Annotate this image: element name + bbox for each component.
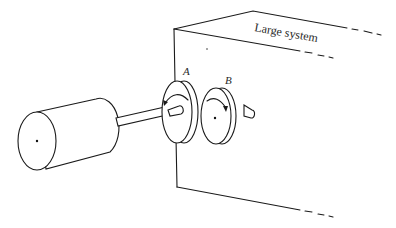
gear-a-label: A [182, 65, 190, 77]
gear-b [201, 88, 255, 144]
diagram-canvas: Large system A B [0, 0, 396, 228]
gear-a [162, 81, 198, 143]
motor-cylinder [18, 98, 119, 170]
speck [206, 48, 208, 50]
gear-b-center-dot [214, 117, 216, 119]
cylinder-center-dot [36, 140, 38, 142]
gear-b-label: B [225, 74, 232, 86]
box-label: Large system [253, 20, 319, 45]
